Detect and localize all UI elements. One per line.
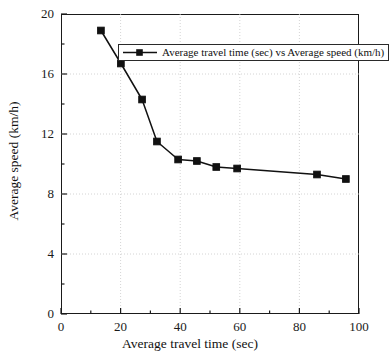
- y-tick-label: 20: [28, 6, 54, 22]
- y-tick-label: 4: [28, 246, 54, 262]
- legend-line-marker-icon: [123, 47, 157, 58]
- y-tick-label: 12: [28, 126, 54, 142]
- y-axis-title: Average speed (km/h): [6, 61, 22, 261]
- y-tick-label: 16: [28, 66, 54, 82]
- x-tick-label: 20: [114, 319, 127, 335]
- x-tick-label: 80: [293, 319, 306, 335]
- y-tick-label: 0: [28, 306, 54, 322]
- chart-legend: Average travel time (sec) vs Average spe…: [118, 44, 389, 61]
- x-tick-label: 100: [349, 319, 369, 335]
- y-tick-label: 8: [28, 186, 54, 202]
- x-tick-label: 0: [58, 319, 65, 335]
- x-tick-label: 40: [174, 319, 187, 335]
- x-axis-title: Average travel time (sec): [0, 336, 380, 352]
- legend-entry-label: Average travel time (sec) vs Average spe…: [162, 46, 384, 58]
- x-tick-label: 60: [233, 319, 246, 335]
